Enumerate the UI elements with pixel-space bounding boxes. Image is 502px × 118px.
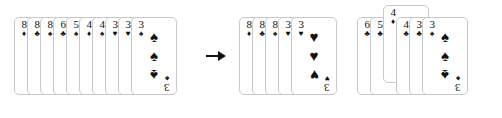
playing-card[interactable]: 3♥♥♥♥3♥ (291, 17, 337, 95)
hearts-suit-icon: ♥ (295, 30, 307, 38)
playing-card[interactable]: 3♠♠♠♠3♠ (422, 17, 468, 95)
arrow-head (218, 51, 226, 61)
spades-pip-icon: ♠ (441, 29, 449, 44)
spades-pip-icon: ♠ (150, 68, 158, 83)
hearts-pip-icon: ♥ (310, 29, 319, 44)
spades-suit-icon: ♠ (135, 30, 147, 38)
transform-arrow (206, 51, 226, 61)
card-index-bottom-right: 3♥ (321, 74, 333, 93)
card-index-top-left: 3♠ (426, 19, 438, 38)
card-rank: 3 (452, 82, 464, 93)
spades-pip-icon: ♠ (150, 48, 158, 63)
card-rank: 3 (161, 82, 173, 93)
spades-suit-icon: ♠ (426, 30, 438, 38)
spades-suit-icon: ♠ (161, 74, 173, 82)
spades-suit-icon: ♠ (452, 74, 464, 82)
card-index-bottom-right: 3♠ (161, 74, 173, 93)
card-index-top-left: 3♥ (295, 19, 307, 38)
card-index-top-left: 3♠ (135, 19, 147, 38)
card-scene: 8♦8♣8♠6♣5♠4♦4♠3♥3♥3♠♠♠♠3♠8♦8♣8♠3♥3♥♥♥♥3♥… (0, 0, 502, 118)
spades-pip-icon: ♠ (150, 29, 158, 44)
hearts-pip-icon: ♥ (310, 68, 319, 83)
card-index-bottom-right: 3♠ (452, 74, 464, 93)
card-rank: 3 (321, 82, 333, 93)
playing-card[interactable]: 3♠♠♠♠3♠ (131, 17, 177, 95)
hearts-suit-icon: ♥ (321, 74, 333, 82)
hearts-pip-icon: ♥ (310, 48, 319, 63)
spades-pip-icon: ♠ (441, 68, 449, 83)
spades-pip-icon: ♠ (441, 48, 449, 63)
